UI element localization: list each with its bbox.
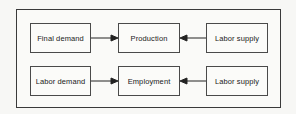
arrows bbox=[0, 0, 296, 114]
arrow-labor-supply-to-production bbox=[180, 35, 206, 41]
arrow-labor-supply-to-employment bbox=[180, 78, 206, 84]
arrow-final-demand-to-production bbox=[91, 35, 118, 41]
arrow-labor-demand-to-employment bbox=[91, 78, 118, 84]
